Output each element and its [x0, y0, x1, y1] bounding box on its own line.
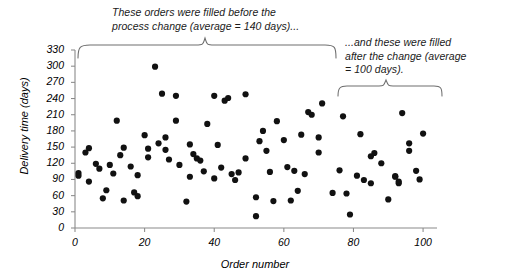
scatter-point	[159, 91, 165, 97]
x-axis-tick-label: 0	[60, 236, 90, 248]
scatter-point	[75, 173, 81, 179]
scatter-point	[225, 95, 231, 101]
scatter-point	[274, 118, 280, 124]
scatter-point	[197, 157, 203, 163]
scatter-point	[354, 173, 360, 179]
scatter-point	[396, 179, 402, 185]
scatter-point	[288, 197, 294, 203]
scatter-point	[96, 166, 102, 172]
scatter-point	[368, 153, 374, 159]
x-axis-tick-label: 80	[338, 236, 368, 248]
y-axis-tick-label: 270	[34, 75, 64, 87]
scatter-point	[173, 93, 179, 99]
x-axis-tick-label: 100	[408, 236, 438, 248]
scatter-point	[176, 162, 182, 168]
scatter-point	[399, 110, 405, 116]
scatter-point	[236, 169, 242, 175]
scatter-point	[86, 179, 92, 185]
scatter-point	[117, 152, 123, 158]
y-axis-tick-label: 30	[34, 205, 64, 217]
scatter-point	[298, 132, 304, 138]
scatter-point	[420, 131, 426, 137]
scatter-point	[406, 140, 412, 146]
scatter-point	[284, 164, 290, 170]
scatter-point	[121, 197, 127, 203]
scatter-point	[162, 147, 168, 153]
scatter-point	[385, 196, 391, 202]
scatter-point	[110, 170, 116, 176]
y-axis-tick-label: 300	[34, 59, 64, 71]
scatter-point	[107, 162, 113, 168]
scatter-point	[204, 121, 210, 127]
scatter-point	[86, 145, 92, 151]
scatter-points	[75, 64, 426, 220]
scatter-point	[263, 148, 269, 154]
scatter-point	[253, 213, 259, 219]
scatter-point	[103, 187, 109, 193]
scatter-point	[211, 93, 217, 99]
scatter-point	[201, 168, 207, 174]
brace-after-change	[338, 80, 442, 96]
scatter-point	[295, 188, 301, 194]
scatter-point	[316, 149, 322, 155]
scatter-point	[187, 174, 193, 180]
annotation-after-change: ...and these were filled after the chang…	[345, 36, 495, 77]
y-axis-tick-label: 240	[34, 92, 64, 104]
annotation-before-change: These orders were filled before the proc…	[112, 6, 342, 33]
scatter-point	[309, 112, 315, 118]
scatter-point	[260, 128, 266, 134]
x-axis-ticks	[75, 228, 423, 232]
scatter-point	[270, 198, 276, 204]
scatter-point	[135, 172, 141, 178]
scatter-point	[291, 168, 297, 174]
x-axis-tick-label: 20	[130, 236, 160, 248]
scatter-point	[135, 193, 141, 199]
scatter-point	[162, 134, 168, 140]
scatter-point	[211, 175, 217, 181]
scatter-point	[242, 155, 248, 161]
scatter-point	[281, 137, 287, 143]
scatter-point	[145, 146, 151, 152]
scatter-point	[114, 118, 120, 124]
y-axis-tick-label: 180	[34, 124, 64, 136]
scatter-point	[183, 198, 189, 204]
scatter-point	[368, 180, 374, 186]
scatter-point	[336, 167, 342, 173]
scatter-point	[100, 195, 106, 201]
scatter-point	[187, 141, 193, 147]
scatter-point	[173, 118, 179, 124]
scatter-point	[406, 148, 412, 154]
y-axis-ticks	[71, 50, 75, 228]
scatter-point	[152, 64, 158, 70]
scatter-point	[267, 169, 273, 175]
scatter-point	[142, 132, 148, 138]
scatter-point	[218, 164, 224, 170]
y-axis-tick-label: 60	[34, 189, 64, 201]
x-axis-tick-label: 40	[199, 236, 229, 248]
chart-axes	[71, 50, 437, 232]
scatter-point	[357, 131, 363, 137]
scatter-point	[347, 211, 353, 217]
brace-before-change	[78, 38, 336, 58]
scatter-point	[417, 176, 423, 182]
scatter-point	[343, 190, 349, 196]
y-axis-tick-label: 0	[34, 221, 64, 233]
y-axis-tick-label: 90	[34, 172, 64, 184]
scatter-point	[319, 100, 325, 106]
scatter-point	[121, 145, 127, 151]
y-axis-tick-label: 330	[34, 43, 64, 55]
scatter-point	[166, 156, 172, 162]
scatter-point	[378, 160, 384, 166]
scatter-point	[340, 113, 346, 119]
scatter-point	[232, 177, 238, 183]
scatter-point	[316, 134, 322, 140]
scatter-point	[253, 194, 259, 200]
scatter-point	[215, 142, 221, 148]
x-axis-tick-label: 60	[269, 236, 299, 248]
scatter-point	[392, 173, 398, 179]
scatter-point	[155, 140, 161, 146]
scatter-point	[229, 171, 235, 177]
scatter-point	[145, 154, 151, 160]
scatter-point	[128, 163, 134, 169]
scatter-point	[413, 168, 419, 174]
